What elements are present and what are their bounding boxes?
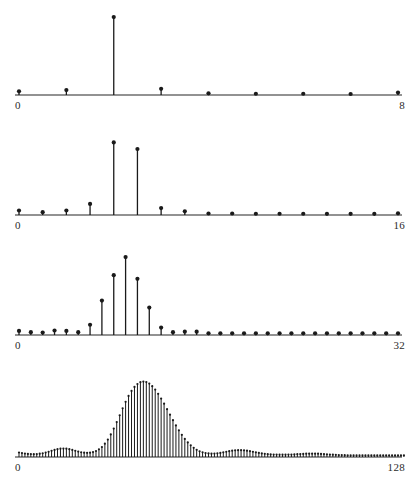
stem-marker: [267, 453, 269, 455]
stem-marker: [201, 451, 203, 453]
stem-marker: [317, 453, 319, 455]
stem-marker: [159, 326, 163, 330]
stem-marker: [332, 454, 334, 456]
stem-marker: [100, 298, 104, 302]
stem-marker: [190, 444, 192, 446]
spectrum-plot-16: [0, 120, 417, 220]
stem-marker: [122, 407, 124, 409]
stem-marker: [382, 454, 384, 456]
stem-marker: [350, 454, 352, 456]
stem-marker: [116, 421, 118, 423]
stem-marker: [151, 385, 153, 387]
stem-marker: [379, 454, 381, 456]
stem-marker: [355, 454, 357, 456]
stem-marker: [17, 208, 21, 212]
stem-marker: [249, 450, 251, 452]
stem-marker: [347, 454, 349, 456]
stem-marker: [325, 331, 329, 335]
stem-marker: [246, 450, 248, 452]
stem-marker: [308, 453, 310, 455]
spectrum-panel-8: 0 8: [0, 0, 417, 118]
stem-marker: [171, 330, 175, 334]
stem-marker: [77, 450, 79, 452]
stem-marker: [64, 88, 68, 92]
stem-marker: [403, 454, 405, 456]
stem-marker: [364, 454, 366, 456]
stem-marker: [367, 454, 369, 456]
stem-marker: [230, 331, 234, 335]
stem-marker: [277, 212, 281, 216]
stem-marker: [360, 331, 364, 335]
stem-marker: [396, 90, 400, 94]
stem-marker: [53, 449, 55, 451]
stem-marker: [41, 330, 45, 334]
stem-marker: [230, 211, 234, 215]
stem-series: [18, 380, 405, 457]
stem-marker: [193, 447, 195, 449]
stem-marker: [231, 450, 233, 452]
stem-marker: [320, 453, 322, 455]
stem-marker: [135, 147, 139, 151]
stem-marker: [62, 447, 64, 449]
stem-marker: [48, 451, 50, 453]
stem-marker: [388, 454, 390, 456]
stem-marker: [326, 453, 328, 455]
stem-marker: [335, 454, 337, 456]
stem-marker: [29, 330, 33, 334]
stem-marker: [65, 448, 67, 450]
stem-marker: [338, 454, 340, 456]
stem-marker: [372, 331, 376, 335]
stem-marker: [71, 449, 73, 451]
stem-marker: [213, 452, 215, 454]
stem-marker: [135, 277, 139, 281]
stem-marker: [228, 450, 230, 452]
stem-marker: [206, 211, 210, 215]
stem-marker: [349, 92, 353, 96]
stem-marker: [110, 433, 112, 435]
stem-marker: [325, 212, 329, 216]
stem-marker: [261, 452, 263, 454]
stem-marker: [36, 453, 38, 455]
axis-label-right-panel-0: 8: [399, 100, 405, 111]
stem-marker: [373, 454, 375, 456]
stem-marker: [254, 331, 258, 335]
stem-marker: [314, 453, 316, 455]
stem-marker: [17, 89, 21, 93]
stem-marker: [216, 452, 218, 454]
stem-marker: [287, 454, 289, 456]
stem-marker: [184, 438, 186, 440]
spectrum-panel-128: 0 128: [0, 362, 417, 480]
stem-marker: [305, 453, 307, 455]
spectrum-panel-32: 0 32: [0, 240, 417, 358]
stem-marker: [296, 453, 298, 455]
stem-marker: [89, 452, 91, 454]
stem-marker: [323, 453, 325, 455]
stem-marker: [80, 451, 82, 453]
stem-marker: [252, 451, 254, 453]
stem-series: [17, 15, 400, 96]
spectrum-plot-8: [0, 0, 417, 100]
stem-marker: [92, 451, 94, 453]
stem-marker: [384, 331, 388, 335]
stem-marker: [130, 390, 132, 392]
stem-marker: [329, 453, 331, 455]
stem-marker: [293, 453, 295, 455]
stem-marker: [159, 206, 163, 210]
stem-marker: [107, 438, 109, 440]
stem-marker: [276, 454, 278, 456]
stem-marker: [302, 453, 304, 455]
stem-marker: [225, 451, 227, 453]
stem-marker: [104, 443, 106, 445]
stem-marker: [112, 15, 116, 19]
stem-marker: [172, 419, 174, 421]
stem-marker: [284, 454, 286, 456]
stem-marker: [30, 453, 32, 455]
stem-marker: [98, 448, 100, 450]
stem-marker: [101, 446, 103, 448]
axis-label-left-panel-1: 0: [15, 220, 21, 231]
stem-marker: [112, 140, 116, 144]
stem-marker: [148, 383, 150, 385]
stem-marker: [299, 453, 301, 455]
axis-label-left-panel-2: 0: [15, 340, 21, 351]
stem-marker: [358, 454, 360, 456]
